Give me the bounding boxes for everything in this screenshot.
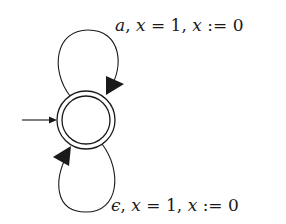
transition-label-bottom: ϵ, x = 1, x := 0 <box>111 197 239 214</box>
guard-operator: = <box>141 195 166 215</box>
self-loop-top <box>58 30 124 96</box>
initial-state-arrow <box>22 117 57 124</box>
separator: , <box>177 195 188 215</box>
separator: , <box>181 15 192 35</box>
guard-value: 1 <box>166 195 177 215</box>
self-loop-bottom <box>53 144 115 212</box>
state-outer-circle <box>57 91 115 149</box>
reset-value: 0 <box>228 195 239 215</box>
separator: , <box>125 15 136 35</box>
arrowhead-bottom-icon <box>53 146 71 166</box>
reset-variable: x <box>188 195 198 215</box>
guard-operator: = <box>146 15 171 35</box>
reset-variable: x <box>192 15 202 35</box>
state-q0[interactable] <box>57 91 115 149</box>
guard-variable: x <box>131 195 141 215</box>
guard-variable: x <box>136 15 146 35</box>
action-symbol: a <box>115 15 125 35</box>
reset-operator: := <box>202 15 233 35</box>
reset-value: 0 <box>233 15 244 35</box>
action-symbol: ϵ <box>111 195 121 215</box>
guard-value: 1 <box>171 15 182 35</box>
reset-operator: := <box>197 195 228 215</box>
transition-label-top: a, x = 1, x := 0 <box>115 17 243 34</box>
separator: , <box>121 195 132 215</box>
